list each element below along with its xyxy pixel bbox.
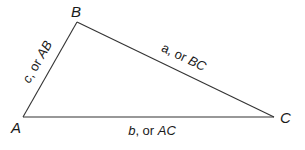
side-bc-line xyxy=(77,22,274,117)
triangle-diagram: A B C c, or AB a, or BC b, or AC xyxy=(0,0,305,150)
side-segment-ac: AC xyxy=(157,123,177,138)
vertex-label-b: B xyxy=(71,3,81,20)
side-label-a: a, or BC xyxy=(159,40,209,74)
vertex-label-c: C xyxy=(280,109,291,126)
side-label-b: b, or AC xyxy=(128,123,176,138)
vertex-label-a: A xyxy=(10,119,21,136)
side-label-c: c, or AB xyxy=(19,38,55,86)
side-sep-b: , or xyxy=(135,123,157,138)
side-letter-b: b xyxy=(128,123,135,138)
